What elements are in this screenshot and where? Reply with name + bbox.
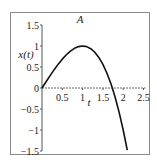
y-tick-label: 1 [34,41,39,52]
y-tick-label: −0.5 [21,104,39,115]
x-tick-label: 1 [80,92,85,103]
x-tick-label: 1.5 [97,92,110,103]
x-tick-label: 2.5 [137,92,150,103]
chart-title: A [76,13,84,25]
y-tick-label: 1.5 [27,20,40,31]
x-tick-label: 2 [121,92,126,103]
line-chart: 1.510.50−0.5−1−1.50.511.522.5 A t x(t) [0,0,157,162]
x-tick-label: 0.5 [56,92,69,103]
y-tick-label: 0 [34,83,39,94]
y-tick-label: 0.5 [27,62,40,73]
x-axis-label: t [87,96,91,108]
y-tick-label: −1.5 [21,146,39,157]
y-axis-label: x(t) [17,48,34,61]
y-tick-label: −1 [28,125,39,136]
